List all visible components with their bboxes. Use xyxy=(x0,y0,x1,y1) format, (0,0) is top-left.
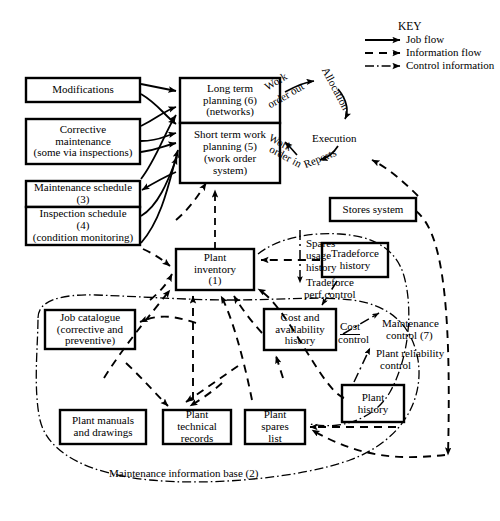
label-cost-control-line2: control xyxy=(338,334,369,346)
box-short-term xyxy=(180,123,280,183)
caption-maintenance-information-base: Maintenance information base (2) xyxy=(109,468,258,480)
box-plant-spares xyxy=(245,410,305,444)
label-spares-usage-history-line3: history xyxy=(306,262,337,274)
diagram-vector-layer xyxy=(0,0,500,521)
job-flow-arrows xyxy=(141,84,178,243)
diagram-canvas: KEY Job flow Information flow Control in… xyxy=(0,0,500,521)
key-title: KEY xyxy=(398,20,422,32)
box-job-catalogue xyxy=(45,310,135,349)
label-plant-reliability-control-line2: control xyxy=(380,360,411,372)
label-maintenance-control-line2: control (7) xyxy=(386,330,433,342)
box-plant-history xyxy=(342,385,404,422)
box-plant-inventory xyxy=(176,249,254,290)
key-label-information-flow: Information flow xyxy=(406,46,481,58)
box-plant-technical xyxy=(163,410,231,444)
box-outlines xyxy=(26,78,416,444)
label-tradeforce-perf-control-line2: perf.control xyxy=(304,289,356,301)
key-sample-lines xyxy=(365,40,400,66)
box-corrective xyxy=(26,119,140,164)
box-modifications xyxy=(26,78,140,102)
box-inspection-schedule xyxy=(26,207,140,245)
box-cost-availability xyxy=(264,309,336,350)
box-plant-manuals xyxy=(60,410,146,444)
label-execution: Execution xyxy=(312,133,357,145)
box-maintenance-schedule xyxy=(26,181,140,207)
key-label-control-information: Control information xyxy=(406,59,494,71)
key-label-job-flow: Job flow xyxy=(406,33,444,45)
box-stores-system xyxy=(330,198,416,221)
